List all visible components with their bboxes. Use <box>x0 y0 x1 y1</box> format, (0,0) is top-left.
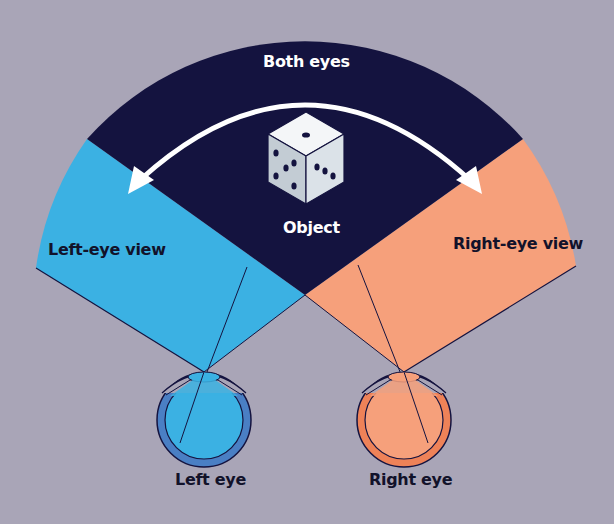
diagram-canvas <box>0 0 614 524</box>
left-eye-view-label: Left-eye view <box>48 240 166 259</box>
both-eyes-label: Both eyes <box>263 52 350 71</box>
binocular-vision-diagram: Both eyes Object Left-eye view Right-eye… <box>0 0 614 524</box>
right-eye-view-label: Right-eye view <box>453 234 583 253</box>
right-eye-icon <box>357 372 451 467</box>
left-eye-icon <box>157 372 251 467</box>
right-eye-label: Right eye <box>369 470 452 489</box>
object-label: Object <box>283 218 340 237</box>
left-eye-label: Left eye <box>175 470 246 489</box>
